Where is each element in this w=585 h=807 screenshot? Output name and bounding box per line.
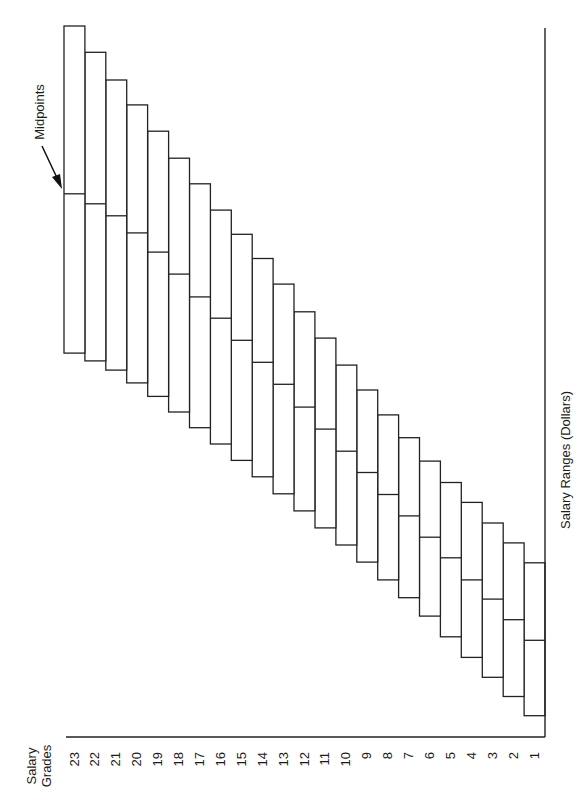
range-box-grade-1 xyxy=(524,563,545,716)
range-box-grade-4 xyxy=(461,502,482,657)
range-box-grade-23 xyxy=(64,26,85,353)
range-box-grade-19 xyxy=(148,131,169,396)
range-box-grade-11 xyxy=(315,338,336,528)
range-box-grade-20 xyxy=(127,105,148,383)
range-rect xyxy=(210,210,231,444)
x-axis-title-line2: Grades xyxy=(39,744,54,787)
range-rect xyxy=(169,158,190,412)
range-rect xyxy=(148,131,169,396)
grade-tick-label: 23 xyxy=(67,752,82,766)
range-rect xyxy=(252,259,273,477)
range-rect xyxy=(294,312,315,511)
range-rect xyxy=(378,415,399,580)
grade-tick-label: 21 xyxy=(108,752,123,766)
range-rect xyxy=(482,523,503,677)
grade-tick-labels: 1234567891011121314151617181920212223 xyxy=(67,752,542,766)
grade-tick-label: 20 xyxy=(129,752,144,766)
x-axis-title-line1: Salary xyxy=(24,747,39,784)
grade-tick-label: 19 xyxy=(150,752,165,766)
range-rect xyxy=(190,184,211,428)
x-axis-title: Salary Grades xyxy=(24,744,54,787)
grade-tick-label: 9 xyxy=(359,752,374,759)
midpoints-arrow-icon xyxy=(42,146,62,189)
range-rect xyxy=(85,52,106,361)
grade-tick-label: 4 xyxy=(464,752,479,759)
grade-tick-label: 12 xyxy=(297,752,312,766)
grade-tick-label: 1 xyxy=(527,752,542,759)
range-rect xyxy=(357,390,378,562)
grade-tick-label: 7 xyxy=(401,752,416,759)
range-box-grade-17 xyxy=(190,184,211,428)
grade-tick-label: 18 xyxy=(171,752,186,766)
range-box-grade-22 xyxy=(85,52,106,361)
y-axis-title: Salary Ranges (Dollars) xyxy=(558,391,573,529)
range-rect xyxy=(64,26,85,353)
range-rect xyxy=(127,105,148,383)
range-box-grade-13 xyxy=(273,284,294,494)
range-rect xyxy=(399,438,420,598)
grade-tick-label: 22 xyxy=(87,752,102,766)
range-box-grade-14 xyxy=(252,259,273,477)
range-box-grade-16 xyxy=(210,210,231,444)
range-rect xyxy=(420,461,441,616)
range-box-grade-12 xyxy=(294,312,315,511)
range-box-grade-15 xyxy=(231,234,252,460)
grade-tick-label: 10 xyxy=(338,752,353,766)
grade-tick-label: 8 xyxy=(380,752,395,759)
grade-tick-label: 14 xyxy=(255,752,270,766)
range-box-grade-3 xyxy=(482,523,503,677)
range-rect xyxy=(336,365,357,545)
range-box-grade-8 xyxy=(378,415,399,580)
range-rect xyxy=(315,338,336,528)
range-rect xyxy=(273,284,294,494)
grade-tick-label: 5 xyxy=(443,752,458,759)
range-rect xyxy=(106,80,127,370)
range-box-grade-6 xyxy=(420,461,441,616)
range-box-grade-7 xyxy=(399,438,420,598)
range-rect xyxy=(524,563,545,716)
salary-range-chart: 1234567891011121314151617181920212223 Sa… xyxy=(0,0,585,807)
grade-tick-label: 6 xyxy=(422,752,437,759)
grade-tick-label: 16 xyxy=(213,752,228,766)
midpoints-annotation: Midpoints xyxy=(32,84,47,140)
grade-tick-label: 15 xyxy=(234,752,249,766)
grade-tick-label: 17 xyxy=(192,752,207,766)
range-rect xyxy=(440,483,461,637)
grade-tick-label: 11 xyxy=(317,752,332,766)
range-box-grade-10 xyxy=(336,365,357,545)
grade-tick-label: 3 xyxy=(485,752,500,759)
range-box-grade-21 xyxy=(106,80,127,370)
range-box-grade-2 xyxy=(503,543,524,697)
range-rect xyxy=(231,234,252,460)
grade-tick-label: 13 xyxy=(276,752,291,766)
range-box-grade-9 xyxy=(357,390,378,562)
grade-tick-label: 2 xyxy=(506,752,521,759)
range-box-grade-5 xyxy=(440,483,461,637)
range-boxes xyxy=(64,26,545,716)
range-box-grade-18 xyxy=(169,158,190,412)
